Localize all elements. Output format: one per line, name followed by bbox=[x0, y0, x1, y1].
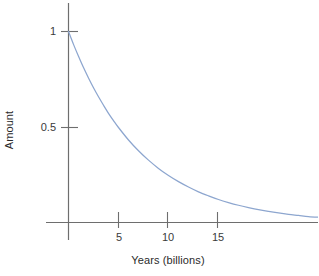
x-tick-label-10: 10 bbox=[155, 231, 181, 243]
y-axis-title-text: Amount bbox=[3, 98, 15, 162]
y-tick-label-05: 0.5 bbox=[26, 121, 56, 133]
x-axis-title: Years (billions) bbox=[113, 254, 223, 266]
exponential-decay-chart: 1 0.5 5 10 15 Amount Years (billions) bbox=[0, 0, 318, 276]
y-axis-title: Amount bbox=[0, 98, 18, 162]
x-tick-label-15: 15 bbox=[205, 231, 231, 243]
y-tick-label-1: 1 bbox=[26, 25, 56, 37]
x-tick-label-5: 5 bbox=[106, 231, 132, 243]
decay-curve-line bbox=[69, 32, 319, 218]
